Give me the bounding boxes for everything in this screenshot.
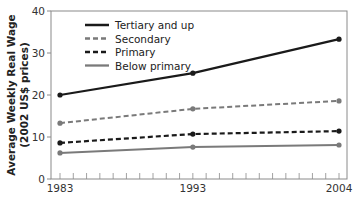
data-point (190, 144, 195, 149)
y-axis-title: Average Weekly Real Wage(2002 US$ prices… (5, 14, 30, 175)
legend: Tertiary and upSecondaryPrimaryBelow pri… (85, 19, 194, 72)
data-point (336, 129, 341, 134)
data-point (57, 140, 62, 145)
data-point (57, 150, 62, 155)
data-point (336, 98, 341, 103)
line-chart: Average Weekly Real Wage(2002 US$ prices… (0, 0, 359, 203)
series-line (60, 145, 339, 153)
plot-frame (51, 11, 347, 179)
legend-label: Tertiary and up (114, 19, 194, 31)
x-axis: 198319932004 (47, 173, 353, 194)
y-axis-title-line-2: (2002 US$ prices) (18, 42, 30, 147)
legend-label: Below primary (115, 60, 191, 72)
data-point (57, 121, 62, 126)
legend-label: Primary (115, 46, 156, 58)
y-axis: 010203040 (32, 5, 51, 185)
data-point (190, 106, 195, 111)
x-tick-label: 1983 (47, 182, 74, 194)
data-point (57, 92, 62, 97)
series-line (60, 131, 339, 143)
y-axis-title-line-1: Average Weekly Real Wage (5, 14, 17, 175)
series-lines (57, 37, 341, 156)
data-point (336, 37, 341, 42)
x-tick-label: 1993 (179, 182, 206, 194)
data-point (190, 131, 195, 136)
y-tick-label: 40 (32, 5, 45, 17)
data-point (190, 71, 195, 76)
y-tick-label: 10 (32, 131, 45, 143)
series-line (60, 39, 339, 95)
legend-label: Secondary (115, 33, 171, 45)
y-tick-label: 30 (32, 47, 45, 59)
y-tick-label: 20 (32, 89, 45, 101)
y-tick-label: 0 (38, 173, 45, 185)
series-line (60, 101, 339, 123)
data-point (336, 142, 341, 147)
x-tick-label: 2004 (326, 182, 353, 194)
